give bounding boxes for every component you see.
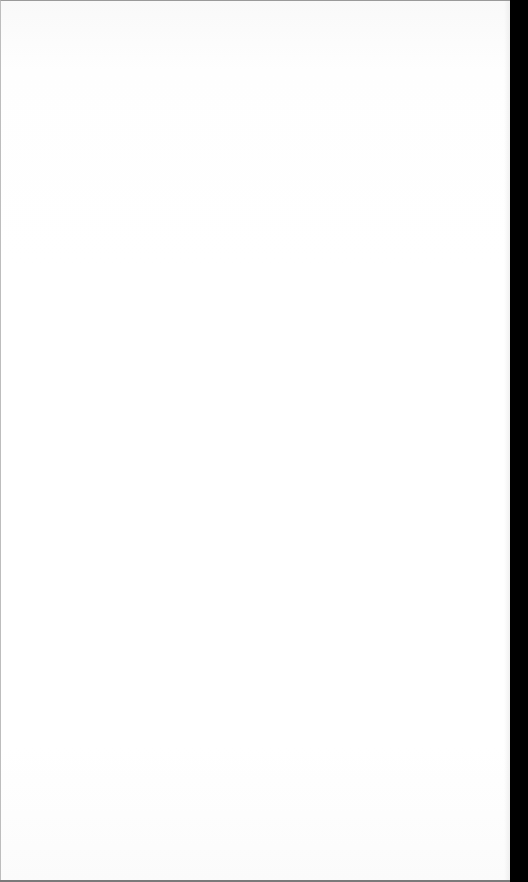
blank-page (0, 0, 510, 880)
screen-frame (0, 0, 528, 882)
right-edge-strip (510, 0, 528, 882)
